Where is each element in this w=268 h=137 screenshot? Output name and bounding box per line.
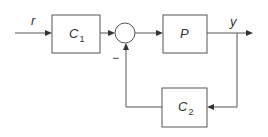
output-arrowhead	[246, 30, 253, 36]
sum-to-plant-arrowhead	[156, 30, 163, 36]
input-signal-label: r	[31, 13, 36, 28]
block-plant-label: P	[180, 26, 189, 41]
feedback-to-c2-arrowhead	[207, 104, 214, 110]
summing-junction	[115, 23, 135, 43]
block-diagram: r C1 P y C2 −	[0, 0, 268, 137]
feedback-branch-line	[212, 33, 237, 107]
block-c2: C2	[162, 88, 207, 127]
feedback-sign-label: −	[112, 51, 119, 65]
c2-to-sum-line	[126, 49, 162, 107]
block-c1: C1	[52, 15, 100, 53]
c1-to-sum-arrowhead	[108, 30, 115, 36]
c2-to-sum-arrowhead	[123, 43, 129, 50]
output-signal-label: y	[229, 14, 238, 29]
block-plant: P	[163, 15, 207, 53]
input-arrowhead	[45, 30, 52, 36]
